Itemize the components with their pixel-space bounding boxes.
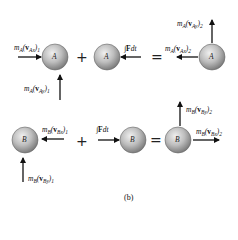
figure-caption: (b) <box>124 194 133 202</box>
sphere-b-final-label: B <box>175 136 180 144</box>
sphere-a-final-label: A <box>209 53 214 61</box>
equals-operator-b: = <box>150 133 162 147</box>
sphere-a-impulse-label: A <box>104 53 109 61</box>
label-b-initial-y: mB(vBy)1 <box>28 175 54 185</box>
plus-operator-a: + <box>76 50 88 64</box>
label-b-impulse: ∫Fdt <box>96 126 109 134</box>
label-b-initial-x: mB(vBx)1 <box>42 126 68 136</box>
label-a-impulse: ∫Fdt <box>124 45 137 53</box>
equals-operator-a: = <box>151 50 163 64</box>
label-a-initial-y: mA(vAy)1 <box>24 85 50 95</box>
plus-operator-b: + <box>76 134 88 148</box>
label-b-final-x: mB(vBx)2 <box>196 128 222 138</box>
label-a-final-x: mA(vAx)2 <box>165 45 191 55</box>
sphere-b-impulse-label: B <box>130 136 135 144</box>
sphere-a-initial-label: A <box>52 53 57 61</box>
sphere-b-initial-label: B <box>22 136 27 144</box>
label-a-initial-x: mA(vAx)1 <box>14 44 40 54</box>
label-a-final-y: mA(vAy)2 <box>177 20 203 30</box>
label-b-final-y: mB(vBy)2 <box>186 106 212 116</box>
